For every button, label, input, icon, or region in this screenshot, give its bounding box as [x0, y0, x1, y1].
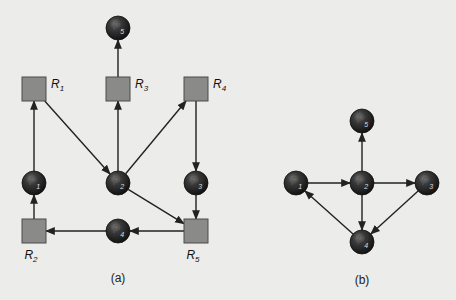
figure-stage: R1R2R3R4R5 P1P2P3P4P5 (a) P1P2P3P4P5 (b)	[0, 0, 456, 300]
process-p2: P2	[350, 171, 374, 195]
resource-box	[184, 219, 208, 243]
resource-label: R5	[186, 248, 200, 264]
process-p5: P5	[350, 109, 374, 133]
resource-r4: R4	[184, 77, 227, 101]
process-p1: P1	[284, 171, 308, 195]
process-p4: P4	[106, 219, 130, 243]
processes: P1P2P3P4P5	[284, 109, 439, 254]
panel-b-wait-for-graph: P1P2P3P4P5 (b)	[284, 109, 439, 287]
process-p1: P1	[22, 171, 46, 195]
resource-box	[106, 77, 130, 101]
process-p3: P3	[415, 171, 439, 195]
edge-p3-to-p4	[371, 191, 418, 234]
resource-label: R1	[51, 77, 64, 93]
resource-box	[184, 77, 208, 101]
resource-box	[22, 219, 46, 243]
panel-a-resource-allocation-graph: R1R2R3R4R5 P1P2P3P4P5 (a)	[22, 16, 227, 285]
resource-r3: R3	[106, 77, 149, 101]
process-p3: P3	[184, 171, 208, 195]
process-p2: P2	[106, 171, 130, 195]
edges	[34, 40, 196, 231]
deadlock-graphs-figure: R1R2R3R4R5 P1P2P3P4P5 (a) P1P2P3P4P5 (b)	[0, 0, 456, 300]
resource-box	[22, 77, 46, 101]
edge-p4-to-p1	[305, 191, 353, 234]
process-p5: P5	[106, 16, 130, 40]
resource-label: R2	[24, 248, 38, 264]
resource-r2: R2	[22, 219, 46, 264]
caption-b: (b)	[355, 273, 370, 287]
edge-p2-to-r4	[126, 101, 186, 174]
resource-r1: R1	[22, 77, 64, 101]
process-p4: P4	[350, 230, 374, 254]
resource-label: R4	[213, 77, 227, 93]
edge-r1-to-p2	[45, 101, 110, 174]
processes: P1P2P3P4P5	[22, 16, 208, 243]
resource-label: R3	[135, 77, 149, 93]
caption-a: (a)	[111, 271, 126, 285]
resource-r5: R5	[184, 219, 208, 264]
edge-p2-to-r5	[128, 189, 184, 223]
